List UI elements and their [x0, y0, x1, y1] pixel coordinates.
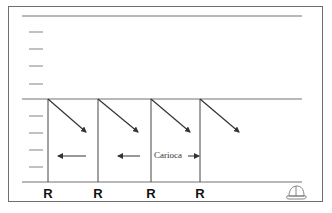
carioca-label: Carioca [154, 150, 182, 160]
diagonal-arrows [48, 99, 239, 132]
receiver-label: R [195, 186, 204, 201]
receiver-label: R [93, 186, 102, 201]
arrow-icon [200, 99, 239, 132]
drill-diagram [0, 0, 332, 213]
vertical-routes [48, 99, 200, 182]
arrow-icon [151, 99, 190, 132]
receiver-label: R [43, 186, 52, 201]
arrow-icon [98, 99, 138, 132]
coach-cap-icon [287, 186, 307, 199]
receiver-label: R [146, 186, 155, 201]
arrow-icon [48, 99, 86, 132]
